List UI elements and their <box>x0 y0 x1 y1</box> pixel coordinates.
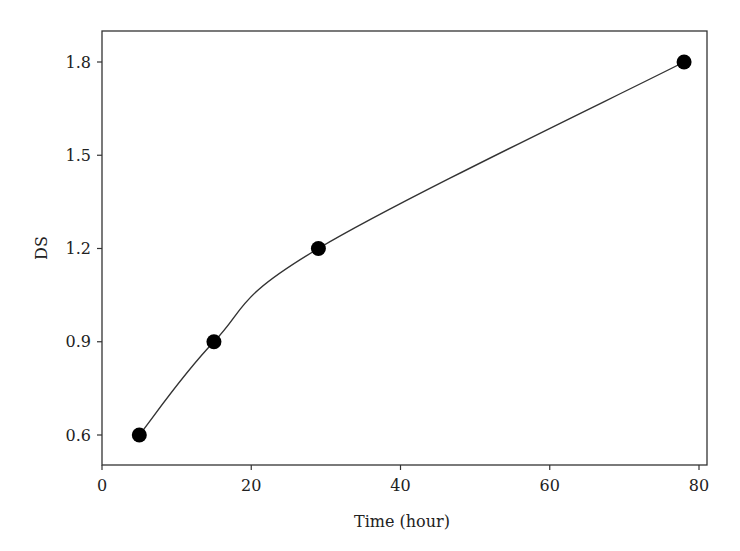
data-point-marker <box>311 241 326 256</box>
x-tick-label: 40 <box>390 476 410 495</box>
y-tick-label: 1.8 <box>66 53 91 72</box>
y-tick-label: 0.6 <box>66 426 91 445</box>
data-point-marker <box>677 55 692 70</box>
x-tick-label: 0 <box>97 476 107 495</box>
data-point-marker <box>206 334 221 349</box>
line-chart: 020406080 0.60.91.21.51.8 Time (hour) DS <box>0 0 740 551</box>
x-axis-title: Time (hour) <box>354 512 450 531</box>
series-line <box>139 62 684 435</box>
y-tick-label: 1.2 <box>66 239 91 258</box>
y-tick-label: 1.5 <box>66 146 91 165</box>
y-tick-label: 0.9 <box>66 332 91 351</box>
series-ds <box>132 55 692 443</box>
x-axis-ticks: 020406080 <box>97 465 709 495</box>
data-point-marker <box>132 428 147 443</box>
y-axis-title: DS <box>32 236 51 260</box>
x-tick-label: 60 <box>540 476 560 495</box>
x-tick-label: 80 <box>689 476 709 495</box>
x-tick-label: 20 <box>241 476 261 495</box>
y-axis-ticks: 0.60.91.21.51.8 <box>66 53 102 445</box>
